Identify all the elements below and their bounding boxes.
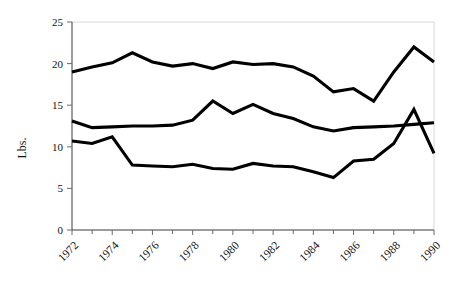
y-tick-label: 0 (58, 224, 64, 236)
x-tick-label: 1990 (418, 239, 443, 264)
x-tick-label: 1972 (56, 239, 81, 264)
line-chart: 0510152025 19721974197619781980198219841… (0, 0, 461, 294)
x-tick-label: 1986 (337, 239, 362, 264)
chart-container: 0510152025 19721974197619781980198219841… (0, 0, 461, 294)
y-tick-label: 5 (58, 182, 64, 194)
y-tick-label: 25 (52, 16, 64, 28)
data-line-series-middle (72, 101, 434, 131)
y-tick-group (67, 22, 72, 230)
data-line-series-top (72, 47, 434, 101)
x-tick-group (72, 230, 434, 235)
y-tick-label: 20 (52, 58, 64, 70)
data-series-group (72, 47, 434, 178)
x-tick-label: 1988 (377, 239, 402, 264)
x-tick-label-group: 1972197419761978198019821984198619881990 (56, 239, 443, 264)
y-tick-label: 15 (52, 99, 64, 111)
y-tick-label: 10 (52, 141, 64, 153)
x-tick-label: 1974 (96, 239, 121, 264)
x-tick-label: 1982 (257, 239, 282, 264)
x-tick-label: 1976 (136, 239, 161, 264)
y-tick-label-group: 0510152025 (52, 16, 64, 236)
x-tick-label: 1980 (217, 239, 242, 264)
y-axis-title: Lbs. (15, 138, 29, 159)
x-tick-label: 1984 (297, 239, 322, 264)
data-line-series-bottom (72, 109, 434, 177)
x-tick-label: 1978 (176, 239, 201, 264)
